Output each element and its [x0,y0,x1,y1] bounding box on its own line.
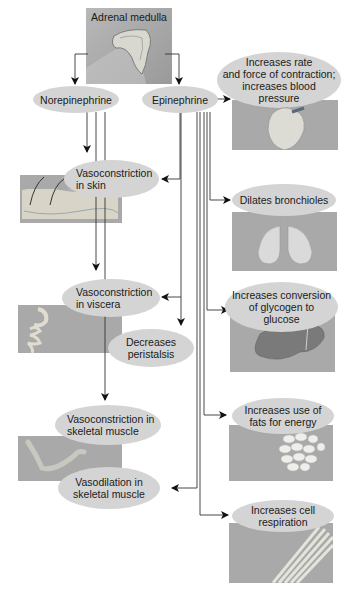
viscera-effect-label: Vasoconstriction in viscera [76,286,152,310]
norepinephrine-label: Norepinephrine [40,94,112,106]
viscera-effect-node: Vasoconstriction in viscera [62,279,160,317]
vasodilation-skeletal-label: Vasodilation in skeletal muscle [73,476,145,500]
bronchioles-effect-node: Dilates bronchioles [232,184,336,216]
vasoconstriction-skeletal-label: Vasoconstriction in skeletal muscle [67,413,154,437]
peristalsis-effect-node: Decreases peristalsis [108,329,194,367]
skin-effect-node: Vasoconstriction in skin [64,160,159,198]
norepinephrine-node: Norepinephrine [33,86,119,113]
vasodilation-skeletal-node: Vasodilation in skeletal muscle [58,467,160,509]
skin-effect-label: Vasoconstriction in skin [76,167,152,191]
fats-effect-label: Increases use of fats for energy [244,404,321,428]
heart-effect-label: Increases rate and force of contraction;… [223,56,336,104]
fats-effect-node: Increases use of fats for energy [232,398,334,434]
epinephrine-node: Epinephrine [142,86,218,113]
bronchioles-effect-label: Dilates bronchioles [240,194,329,206]
epinephrine-label: Epinephrine [152,94,208,106]
peristalsis-effect-label: Decreases peristalsis [126,336,176,360]
respiration-effect-label: Increases cell respiration [251,504,315,528]
vasoconstriction-skeletal-node: Vasoconstriction in skeletal muscle [55,405,161,445]
respiration-effect-node: Increases cell respiration [232,500,334,532]
glycogen-effect-label: Increases conversion of glycogen to gluc… [232,289,331,325]
heart-effect-node: Increases rate and force of contraction;… [217,52,341,108]
glycogen-effect-node: Increases conversion of glycogen to gluc… [225,282,338,332]
